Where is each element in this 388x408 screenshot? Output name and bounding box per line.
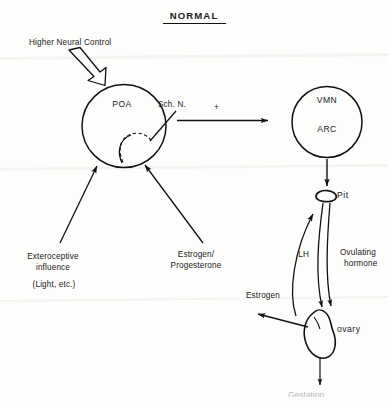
lh-arrow	[318, 203, 323, 307]
estrogen-progesterone-label-line2: Progesterone	[171, 261, 222, 270]
ovulating-hormone-arrow	[327, 203, 331, 306]
ovary-output-left-arrow	[258, 314, 308, 327]
vmn-label: VMN	[317, 95, 338, 105]
ovary-label: ovary	[337, 324, 361, 334]
bottom-clipped-text-group: Gestation	[288, 391, 325, 400]
estrogen-label: Estrogen	[246, 291, 280, 300]
exteroceptive-label-line1: Exteroceptive	[27, 252, 79, 261]
pit-shape	[316, 191, 336, 202]
estrogen-progesterone-label-line1: Estrogen/	[178, 250, 215, 259]
diagram-page: NORMAL Higher Neural Control POA Sch. N.…	[0, 0, 388, 408]
bottom-clipped-label: Gestation	[288, 391, 325, 400]
poa-inner-arc-dashed	[120, 133, 152, 162]
ovary-follicle-mark	[314, 317, 320, 329]
arc-label: ARC	[317, 124, 337, 134]
exteroceptive-light-label: (Light, etc.)	[33, 280, 76, 289]
plus-sign-label: +	[214, 103, 219, 112]
exteroceptive-arrow	[60, 166, 97, 243]
poa-label: POA	[112, 99, 132, 109]
ovulating-hormone-label-line2: hormone	[344, 259, 378, 268]
page-title: NORMAL	[170, 10, 219, 21]
estrogen-progesterone-arrow	[145, 165, 203, 243]
ovary-shape	[304, 310, 335, 359]
sch-n-connector-line	[150, 111, 176, 141]
exteroceptive-label-line2: influence	[36, 263, 70, 272]
lh-label: LH	[298, 250, 309, 259]
pit-label: Pit	[337, 190, 349, 200]
sch-n-label: Sch. N.	[158, 100, 186, 109]
poa-circle	[82, 85, 166, 168]
poa-inner-arc-solid	[119, 135, 131, 163]
diagram-canvas: NORMAL Higher Neural Control POA Sch. N.…	[0, 0, 388, 408]
higher-neural-control-label: Higher Neural Control	[29, 38, 111, 47]
higher-neural-control-arrow	[69, 48, 106, 86]
estrogen-to-pit-arrow	[293, 214, 313, 316]
ovulating-hormone-label-line1: Ovulating	[340, 248, 376, 257]
